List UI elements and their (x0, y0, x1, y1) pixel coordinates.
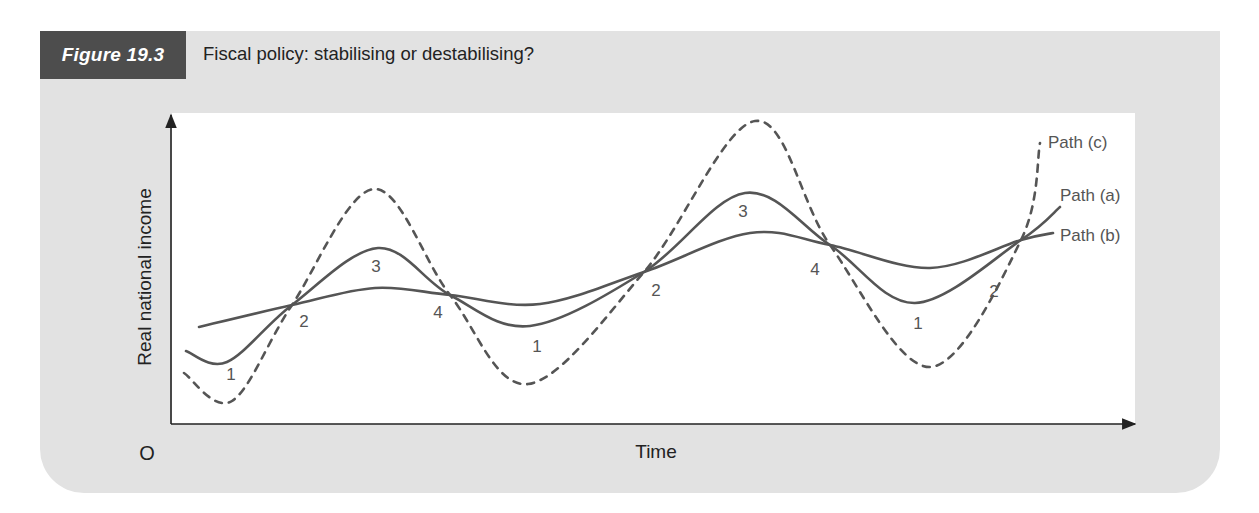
phase-label: 2 (299, 312, 308, 331)
origin-label: O (139, 442, 155, 465)
series-label: Path (b) (1060, 226, 1120, 245)
phase-label: 2 (989, 282, 998, 301)
series-label: Path (a) (1060, 186, 1120, 205)
series-labels: Path (c)Path (a)Path (b) (1048, 133, 1120, 245)
phase-label: 1 (913, 314, 922, 333)
phase-label: 3 (738, 202, 747, 221)
phase-label: 4 (433, 303, 442, 322)
phase-label: 4 (810, 260, 819, 279)
phase-label: 3 (371, 257, 380, 276)
phase-label: 1 (532, 337, 541, 356)
series-layer (184, 121, 1060, 403)
series-line-path-c (184, 121, 1040, 403)
phase-label: 2 (651, 281, 660, 300)
series-label: Path (c) (1048, 133, 1108, 152)
series-line-path-b (199, 232, 1053, 327)
phase-label: 1 (226, 365, 235, 384)
x-axis-label: Time (635, 441, 677, 463)
line-chart: 1234123412 Path (c)Path (a)Path (b) (0, 0, 1259, 513)
y-axis-label: Real national income (134, 188, 156, 365)
